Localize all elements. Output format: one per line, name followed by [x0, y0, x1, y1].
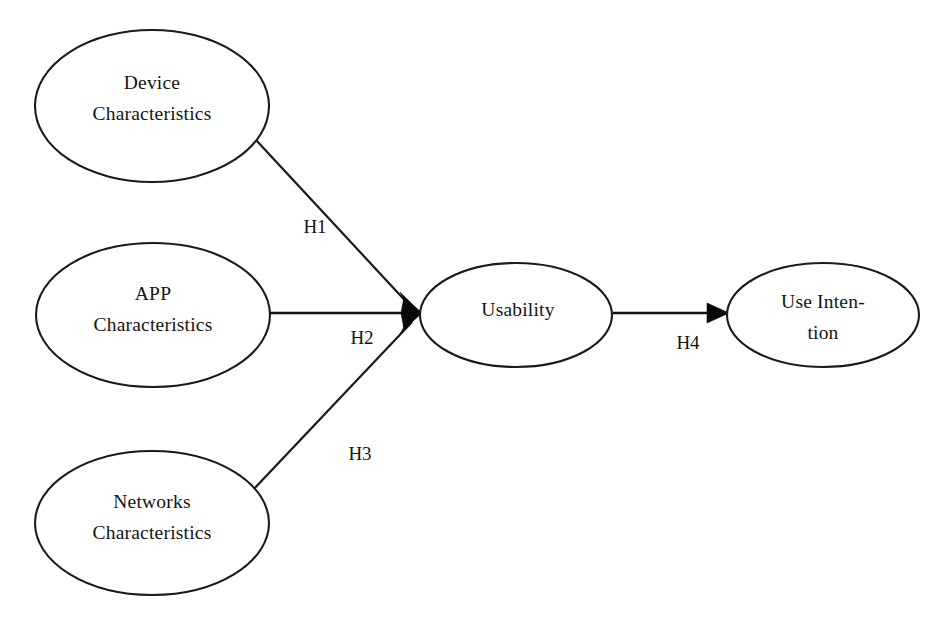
edge-convergence-arrowheads — [400, 292, 422, 334]
edge-label-h2: H2 — [350, 327, 373, 348]
edge-h1-line — [256, 140, 412, 308]
arrowhead-cluster-core-icon — [401, 297, 422, 329]
node-use-intention[interactable]: Use Inten- tion — [727, 263, 919, 367]
edge-h3 — [253, 322, 412, 490]
node-use-intention-shape[interactable] — [727, 263, 919, 367]
node-app-characteristics[interactable]: APP Characteristics — [36, 243, 270, 387]
edge-label-h1: H1 — [303, 216, 326, 237]
edge-h4 — [613, 303, 729, 323]
edge-h3-line — [253, 322, 412, 490]
node-networks-characteristics[interactable]: Networks Characteristics — [35, 451, 269, 595]
node-device-characteristics-label-line2: Characteristics — [93, 103, 212, 124]
node-app-characteristics-label-line1: APP — [135, 283, 171, 304]
edge-label-h4: H4 — [676, 332, 700, 353]
node-use-intention-label-line1: Use Inten- — [781, 291, 865, 312]
diagram-canvas: Device Characteristics APP Characteristi… — [0, 0, 944, 622]
node-device-characteristics[interactable]: Device Characteristics — [35, 30, 269, 182]
node-usability[interactable]: Usability — [420, 263, 612, 367]
node-networks-characteristics-label-line2: Characteristics — [93, 522, 212, 543]
arrowhead-h4-icon — [707, 303, 729, 323]
node-app-characteristics-label-line2: Characteristics — [94, 314, 213, 335]
node-networks-characteristics-label-line1: Networks — [113, 491, 190, 512]
research-model-diagram: Device Characteristics APP Characteristi… — [0, 0, 944, 622]
edge-h1 — [256, 140, 412, 308]
node-device-characteristics-label-line1: Device — [124, 72, 180, 93]
node-use-intention-label-line2: tion — [807, 322, 838, 343]
node-usability-label: Usability — [481, 299, 554, 320]
edge-label-h3: H3 — [348, 443, 371, 464]
